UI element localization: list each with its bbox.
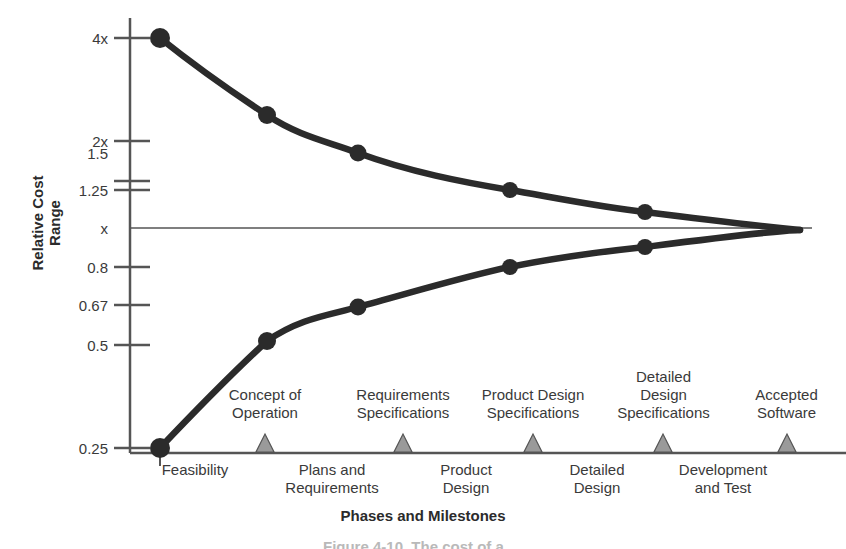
data-point [258, 332, 276, 350]
y-tick-marks [114, 38, 150, 448]
upper-bound-markers [150, 28, 653, 220]
data-point [637, 204, 653, 220]
phase-label-plans-and-requirements: Plans and Requirements [262, 461, 402, 497]
data-point [350, 145, 367, 162]
y-tick-label-025: 0.25 [48, 441, 108, 456]
phase-label-feasibility: Feasibility [135, 461, 255, 479]
data-point [637, 239, 653, 255]
upper-bound-curve [160, 38, 800, 230]
data-point [502, 259, 518, 275]
y-tick-label-x: x [48, 221, 108, 236]
lower-bound-markers [150, 239, 653, 458]
milestone-triangle [394, 434, 412, 452]
data-point [350, 299, 367, 316]
milestone-triangle [778, 434, 796, 452]
figure-caption: Figure 4-10. The cost of a … [0, 538, 846, 549]
data-point [150, 438, 170, 458]
x-axis-title: Phases and Milestones [0, 507, 846, 524]
y-tick-label-15: 1.5 [48, 146, 108, 161]
milestone-label-detailed-design-specifications: Detailed Design Specifications [592, 368, 735, 422]
milestone-label-product-design-specifications: Product Design Specifications [455, 386, 611, 422]
data-point [258, 106, 276, 124]
phase-label-development-and-test: Development and Test [655, 461, 791, 497]
chart-figure: Relative Cost Range 4x 2x 1.5 1.25 x 0.8… [0, 0, 846, 549]
phase-label-detailed-design: Detailed Design [537, 461, 657, 497]
y-axis-title: Relative Cost Range [12, 0, 80, 148]
milestone-markers [256, 434, 796, 452]
y-tick-label-05: 0.5 [48, 338, 108, 353]
y-tick-label-125: 1.25 [48, 183, 108, 198]
y-tick-label-08: 0.8 [48, 260, 108, 275]
y-tick-label-4x: 4x [48, 31, 108, 46]
milestone-triangle [256, 434, 274, 452]
milestone-triangle [654, 434, 672, 452]
data-point [502, 182, 518, 198]
phase-label-product-design: Product Design [406, 461, 526, 497]
milestone-triangle [524, 434, 542, 452]
y-tick-label-067: 0.67 [48, 298, 108, 313]
milestone-label-concept-of-operation: Concept of Operation [195, 386, 335, 422]
milestone-label-accepted-software: Accepted Software [727, 386, 846, 422]
data-point [150, 28, 170, 48]
